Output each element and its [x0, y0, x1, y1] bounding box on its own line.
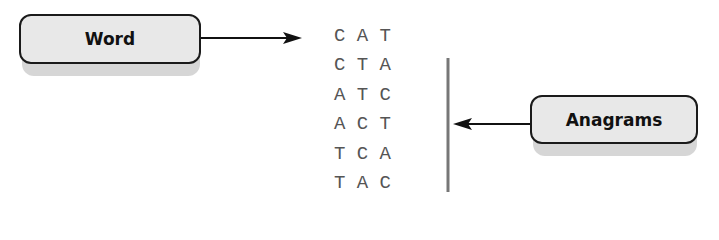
anagrams-arrow [453, 118, 530, 130]
anagram-row: T A C [334, 169, 391, 198]
word-row: C A T [334, 22, 391, 51]
anagram-row: A C T [334, 110, 391, 139]
word-arrow [201, 32, 302, 44]
anagram-row: T C A [334, 140, 391, 169]
letter-list: C A T C T A A T C A C T T C A T A C [334, 22, 391, 198]
anagram-row: C T A [334, 51, 391, 80]
anagram-row: A T C [334, 81, 391, 110]
